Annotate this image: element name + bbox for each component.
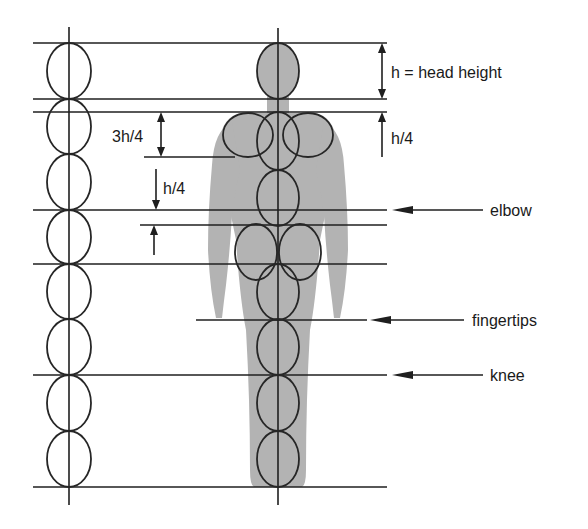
- arrowhead-up-icon: [150, 225, 158, 235]
- arrowhead-up-icon: [378, 112, 386, 122]
- head-height-label: h = head height: [391, 64, 502, 81]
- landmark-label-knee: knee: [490, 367, 525, 384]
- arrow-left-icon: [392, 206, 413, 214]
- arrowhead-down-icon: [152, 200, 160, 210]
- upper-gap-label: h/4: [163, 180, 185, 197]
- arrowhead-up-icon: [378, 43, 386, 53]
- shoulder-offset-label: h/4: [391, 130, 413, 147]
- body-proportion-diagram: h = head height h/4 3h/4 h/4 elbow finge…: [0, 0, 588, 529]
- shoulder-drop-label: 3h/4: [112, 128, 143, 145]
- arrowhead-down-icon: [157, 147, 165, 157]
- landmark-label-elbow: elbow: [490, 202, 532, 219]
- arrowhead-up-icon: [157, 112, 165, 122]
- landmark-label-fingertips: fingertips: [472, 312, 537, 329]
- arrow-left-icon: [370, 316, 391, 324]
- arrow-left-icon: [392, 371, 413, 379]
- arrowhead-down-icon: [378, 89, 386, 99]
